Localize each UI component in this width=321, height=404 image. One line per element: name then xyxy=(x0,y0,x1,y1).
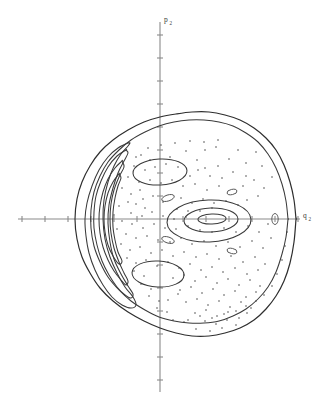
chaotic-orbit-point xyxy=(239,246,241,248)
chaotic-orbit-point xyxy=(250,307,252,309)
chaotic-orbit-point xyxy=(209,175,211,177)
chaotic-orbit-point xyxy=(240,301,242,303)
chaotic-orbit-point xyxy=(187,210,189,212)
chaotic-orbit-point xyxy=(281,259,283,261)
chaotic-orbit-point xyxy=(118,205,120,207)
chaotic-orbit-point xyxy=(142,198,144,200)
chaotic-orbit-point xyxy=(211,317,213,319)
chaotic-orbit-point xyxy=(189,140,191,142)
chaotic-orbit-point xyxy=(141,215,143,217)
chaotic-orbit-point xyxy=(199,210,201,212)
chaotic-orbit-point xyxy=(209,330,211,332)
chaotic-orbit-point xyxy=(284,245,286,247)
chaotic-orbit-point xyxy=(179,289,181,291)
chaotic-orbit-point xyxy=(185,150,187,152)
chaotic-orbit-point xyxy=(135,262,137,264)
x-axis-label-subscript: 2 xyxy=(309,216,312,222)
chaotic-orbit-point xyxy=(154,166,156,168)
chaotic-orbit-point xyxy=(172,255,174,257)
chaotic-orbit-point xyxy=(245,162,247,164)
chaotic-orbit-point xyxy=(263,294,265,296)
chaotic-orbit-point xyxy=(226,319,228,321)
chaotic-orbit-point xyxy=(156,265,158,267)
chaotic-orbit-point xyxy=(203,141,205,143)
chaotic-orbit-point xyxy=(133,270,135,272)
chaotic-orbit-point xyxy=(140,283,142,285)
chaotic-orbit-point xyxy=(262,247,264,249)
chaotic-orbit-point xyxy=(205,309,207,311)
chaotic-orbit-point xyxy=(246,199,248,201)
chaotic-orbit-point xyxy=(147,147,149,149)
chaotic-orbit-point xyxy=(217,165,219,167)
chaotic-orbit-point xyxy=(254,256,256,258)
chaotic-orbit-point xyxy=(205,276,207,278)
chaotic-orbit-point xyxy=(223,313,225,315)
y-axis-label: p xyxy=(164,15,168,24)
chaotic-orbit-point xyxy=(158,300,160,302)
chaotic-orbit-point xyxy=(258,231,260,233)
chaotic-orbit-point xyxy=(223,227,225,229)
chaotic-orbit-point xyxy=(140,154,142,156)
chaotic-orbit-point xyxy=(227,311,229,313)
chaotic-orbit-point xyxy=(234,267,236,269)
chaotic-orbit-point xyxy=(217,139,219,141)
chaotic-orbit-point xyxy=(213,202,215,204)
chaotic-orbit-point xyxy=(257,195,259,197)
chaotic-orbit-point xyxy=(245,305,247,307)
chaotic-orbit-point xyxy=(246,273,248,275)
chaotic-orbit-point xyxy=(191,202,193,204)
chaotic-orbit-point xyxy=(144,169,146,171)
chaotic-orbit-point xyxy=(139,189,141,191)
chaotic-orbit-point xyxy=(135,237,137,239)
chaotic-orbit-point xyxy=(271,176,273,178)
chaotic-orbit-point xyxy=(245,175,247,177)
chaotic-orbit-point xyxy=(121,187,123,189)
chaotic-orbit-point xyxy=(261,165,263,167)
chaotic-orbit-point xyxy=(222,271,224,273)
chaotic-orbit-point xyxy=(183,251,185,253)
chaotic-orbit-point xyxy=(148,295,150,297)
chaotic-orbit-point xyxy=(203,240,205,242)
chaotic-orbit-point xyxy=(207,304,209,306)
chaotic-orbit-point xyxy=(143,275,145,277)
chaotic-orbit-point xyxy=(255,300,257,302)
chaotic-orbit-point xyxy=(215,323,217,325)
chaotic-orbit-point xyxy=(161,249,163,251)
chaotic-orbit-point xyxy=(195,256,197,258)
chaotic-orbit-point xyxy=(189,263,191,265)
chaotic-orbit-point xyxy=(232,171,234,173)
chaotic-orbit-point xyxy=(182,185,184,187)
chaotic-orbit-point xyxy=(238,284,240,286)
chaotic-orbit-point xyxy=(271,285,273,287)
chaotic-orbit-point xyxy=(225,200,227,202)
chaotic-orbit-point xyxy=(216,315,218,317)
chaotic-orbit-point xyxy=(238,317,240,319)
chaotic-orbit-point xyxy=(169,156,171,158)
chaotic-orbit-point xyxy=(216,282,218,284)
chaotic-orbit-point xyxy=(157,239,159,241)
chaotic-orbit-point xyxy=(131,223,133,225)
chaotic-orbit-point xyxy=(246,312,248,314)
chaotic-orbit-point xyxy=(242,185,244,187)
chaotic-orbit-point xyxy=(164,227,166,229)
chaotic-orbit-point xyxy=(242,261,244,263)
chaotic-orbit-point xyxy=(185,216,187,218)
chaotic-orbit-point xyxy=(196,298,198,300)
chaotic-orbit-point xyxy=(199,229,201,231)
chaotic-orbit-point xyxy=(177,166,179,168)
chaotic-orbit-point xyxy=(267,223,269,225)
chaotic-orbit-point xyxy=(195,328,197,330)
chaotic-orbit-point xyxy=(191,243,193,245)
chaotic-orbit-point xyxy=(173,218,175,220)
chaotic-orbit-point xyxy=(175,228,177,230)
chaotic-orbit-point xyxy=(130,212,132,214)
chaotic-orbit-point xyxy=(174,142,176,144)
chaotic-orbit-point xyxy=(189,175,191,177)
chaotic-orbit-point xyxy=(126,257,128,259)
chaotic-orbit-point xyxy=(183,321,185,323)
chaotic-orbit-point xyxy=(253,179,255,181)
chaotic-orbit-point xyxy=(120,243,122,245)
chaotic-orbit-point xyxy=(142,227,144,229)
chaotic-orbit-point xyxy=(160,144,162,146)
chaotic-orbit-point xyxy=(146,235,148,237)
